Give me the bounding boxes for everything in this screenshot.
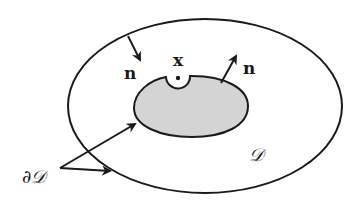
domain-diagram: x n n 𝒟 ∂𝒟 — [0, 0, 358, 202]
normal-arrow-outer — [128, 36, 140, 60]
point-x-dot — [176, 76, 180, 80]
normal-label-inner: n — [243, 58, 255, 78]
boundary-arrow-inner — [60, 124, 135, 168]
point-x-label: x — [173, 50, 184, 70]
domain-label: 𝒟 — [249, 144, 267, 165]
normal-label-outer: n — [124, 63, 136, 83]
boundary-arrow-outer — [60, 168, 110, 171]
normal-arrow-inner — [221, 56, 236, 83]
boundary-label: ∂𝒟 — [22, 166, 49, 187]
inner-region — [134, 76, 248, 137]
